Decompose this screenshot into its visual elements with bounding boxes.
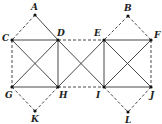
point-A: [33, 13, 36, 16]
point-I: [102, 85, 105, 88]
segment-JL: [128, 87, 151, 112]
point-label-K: K: [30, 114, 40, 124]
segment-GK: [12, 87, 35, 111]
point-F: [149, 38, 152, 41]
point-B: [126, 14, 129, 17]
segment-BE: [104, 16, 128, 40]
point-label-C: C: [2, 33, 10, 43]
segment-BF: [128, 16, 151, 40]
point-label-G: G: [5, 90, 13, 100]
point-label-E: E: [93, 28, 101, 38]
point-label-H: H: [58, 90, 68, 100]
segment-IL: [104, 87, 128, 112]
point-G: [10, 85, 13, 88]
point-label-B: B: [123, 3, 132, 13]
point-J: [149, 85, 152, 88]
point-label-A: A: [30, 2, 38, 12]
point-H: [56, 85, 59, 88]
point-label-I: I: [95, 90, 101, 100]
point-K: [33, 109, 36, 112]
segment-AD: [35, 15, 58, 40]
point-C: [10, 38, 13, 41]
point-L: [126, 110, 129, 113]
segment-HK: [35, 87, 58, 111]
segment-AC: [12, 15, 35, 40]
point-label-D: D: [56, 28, 65, 38]
geometry-diagram: ABCDEFGHIJKL: [0, 0, 162, 124]
point-label-F: F: [153, 30, 161, 40]
point-label-L: L: [124, 115, 131, 124]
point-E: [102, 38, 105, 41]
segments-group: [12, 15, 151, 112]
point-label-J: J: [148, 90, 155, 100]
point-D: [56, 38, 59, 41]
